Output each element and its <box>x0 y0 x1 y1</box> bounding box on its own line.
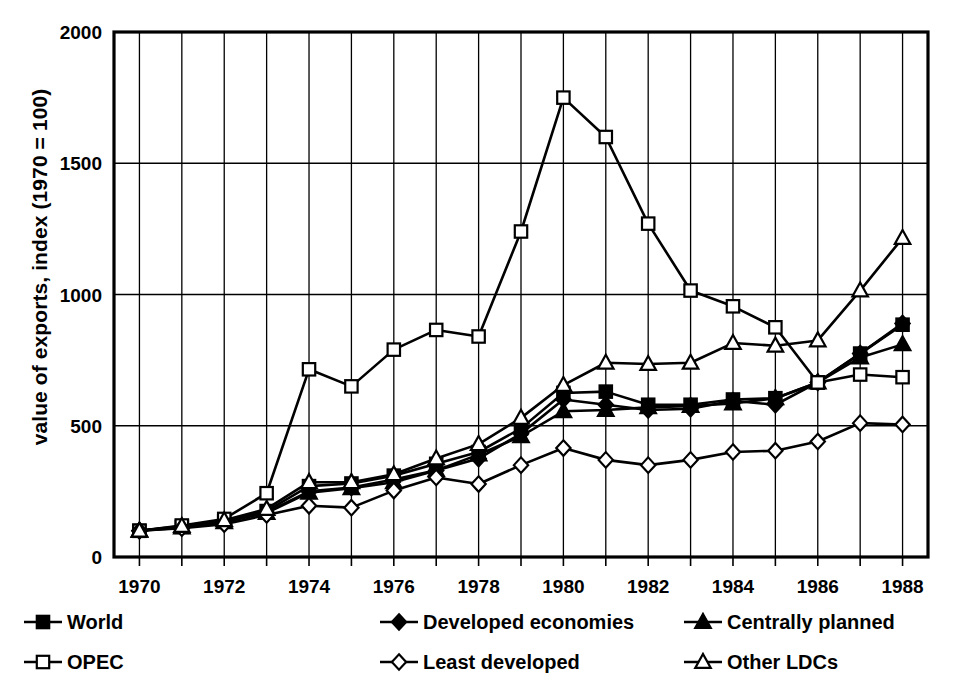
data-point <box>895 417 909 433</box>
chart-figure: value of exports, index (1970 = 100) 050… <box>0 0 955 689</box>
open-square-icon <box>24 652 62 672</box>
legend-label: Other LDCs <box>727 652 838 672</box>
legend-label: World <box>67 612 123 632</box>
filled-square-icon <box>24 612 62 632</box>
data-point <box>303 363 315 375</box>
data-point <box>683 452 697 468</box>
data-point <box>430 324 442 336</box>
filled-triangle-icon <box>684 612 722 632</box>
data-point <box>725 335 741 349</box>
x-tick-label: 1982 <box>627 576 669 597</box>
data-point <box>600 131 612 143</box>
data-point <box>895 336 911 350</box>
data-point <box>854 368 866 380</box>
data-point <box>471 436 487 450</box>
gridlines <box>114 32 928 566</box>
data-point <box>260 487 272 499</box>
x-tick-label: 1978 <box>457 576 499 597</box>
legend-item-opec[interactable]: OPEC <box>24 652 124 672</box>
x-tick-label: 1970 <box>118 576 160 597</box>
x-tick-label: 1976 <box>373 576 415 597</box>
y-tick-label: 500 <box>70 416 102 437</box>
data-point <box>556 440 570 456</box>
y-tick-label: 1500 <box>60 153 102 174</box>
x-axis-tick-labels: 1970197219741976197819801982198419861988 <box>118 576 923 597</box>
x-tick-label: 1984 <box>712 576 755 597</box>
data-point <box>513 410 529 424</box>
legend-label: Centrally planned <box>727 612 895 632</box>
y-tick-label: 1000 <box>60 285 102 306</box>
open-triangle-icon <box>684 652 722 672</box>
x-tick-label: 1986 <box>797 576 839 597</box>
x-tick-label: 1974 <box>288 576 331 597</box>
data-point <box>557 91 569 103</box>
y-tick-label: 2000 <box>60 22 102 43</box>
x-tick-label: 1972 <box>203 576 245 597</box>
data-point <box>642 217 654 229</box>
data-point <box>471 476 485 492</box>
y-tick-label: 0 <box>91 547 102 568</box>
data-point <box>853 415 867 431</box>
data-point <box>388 343 400 355</box>
chart-legend: World Developed economies Centrally plan… <box>0 604 955 689</box>
data-point <box>472 330 484 342</box>
data-point <box>515 225 527 237</box>
data-point <box>811 434 825 450</box>
legend-item-least-developed[interactable]: Least developed <box>380 652 580 672</box>
x-tick-label: 1988 <box>881 576 923 597</box>
data-point <box>641 457 655 473</box>
legend-item-centrally-planned[interactable]: Centrally planned <box>684 612 895 632</box>
y-axis-tick-labels: 0500100015002000 <box>60 22 102 568</box>
data-point <box>769 321 781 333</box>
data-point <box>302 498 316 514</box>
data-point <box>895 230 911 244</box>
legend-item-developed-economies[interactable]: Developed economies <box>380 612 634 632</box>
data-point <box>684 284 696 296</box>
data-point <box>812 376 824 388</box>
legend-label: Least developed <box>423 652 580 672</box>
data-point <box>896 371 908 383</box>
data-point <box>556 377 572 391</box>
open-diamond-icon <box>380 652 418 672</box>
data-point <box>599 452 613 468</box>
data-point <box>344 500 358 516</box>
legend-label: OPEC <box>67 652 124 672</box>
plot-area-container: 0500100015002000 19701972197419761978198… <box>0 0 955 600</box>
x-tick-label: 1980 <box>542 576 584 597</box>
legend-label: Developed economies <box>423 612 634 632</box>
data-point <box>768 443 782 459</box>
data-point <box>514 457 528 473</box>
line-chart-svg: 0500100015002000 19701972197419761978198… <box>0 0 955 600</box>
legend-item-world[interactable]: World <box>24 612 123 632</box>
legend-item-other-ldcs[interactable]: Other LDCs <box>684 652 838 672</box>
filled-diamond-icon <box>380 612 418 632</box>
data-point <box>726 444 740 460</box>
data-point <box>727 300 739 312</box>
data-point <box>345 380 357 392</box>
